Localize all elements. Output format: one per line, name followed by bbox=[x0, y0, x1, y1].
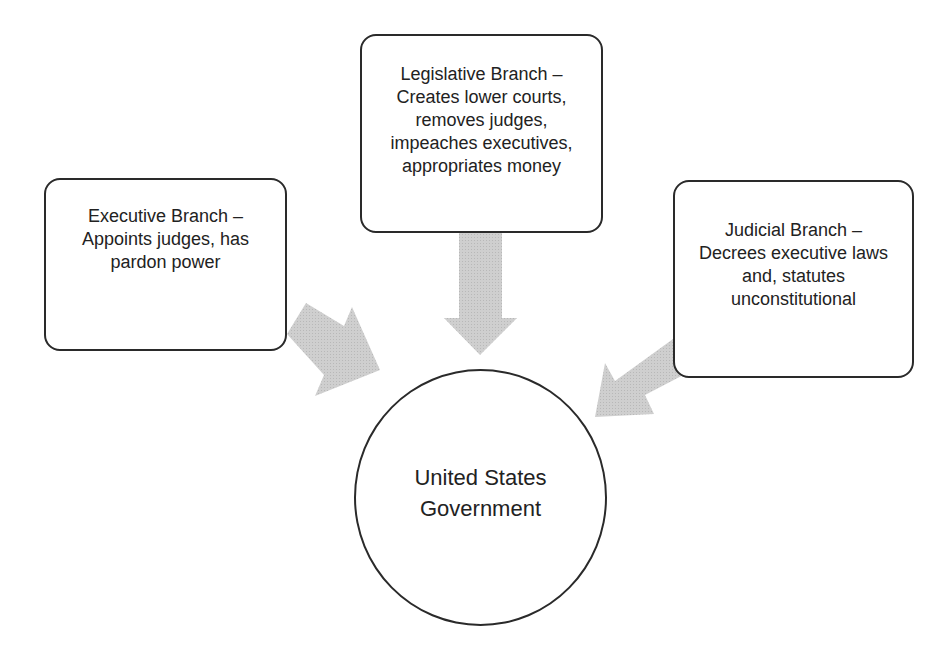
government-label: United States Government bbox=[406, 462, 556, 524]
arrow-legislative-to-government bbox=[444, 233, 517, 355]
judicial-branch-box: Judicial Branch – Decrees executive laws… bbox=[673, 180, 914, 378]
government-circle: United States Government bbox=[354, 369, 607, 626]
judicial-branch-label: Judicial Branch – Decrees executive laws… bbox=[694, 219, 894, 311]
legislative-branch-box: Legislative Branch – Creates lower court… bbox=[360, 34, 603, 233]
executive-branch-box: Executive Branch – Appoints judges, has … bbox=[44, 178, 287, 351]
diagram-canvas: Executive Branch – Appoints judges, has … bbox=[0, 0, 950, 652]
legislative-branch-label: Legislative Branch – Creates lower court… bbox=[374, 63, 589, 178]
arrow-executive-to-government bbox=[287, 303, 380, 396]
executive-branch-label: Executive Branch – Appoints judges, has … bbox=[66, 205, 266, 274]
